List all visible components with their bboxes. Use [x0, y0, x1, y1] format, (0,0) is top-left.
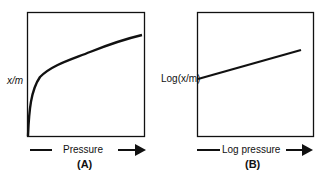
panel-label-a: (A): [77, 158, 92, 170]
x-arrow-head-b: [302, 144, 313, 156]
curve-a: [28, 35, 142, 136]
y-axis-label-a: x/m: [7, 75, 23, 86]
plot-frame-a: [28, 13, 145, 137]
x-axis-label-b: Log pressure: [222, 144, 280, 155]
x-arrow-head-a: [135, 144, 146, 156]
x-axis-label-a: Pressure: [63, 144, 103, 155]
panel-label-b: (B): [245, 158, 260, 170]
line-b: [198, 50, 301, 79]
y-axis-label-b: Log(x/m): [161, 73, 200, 84]
